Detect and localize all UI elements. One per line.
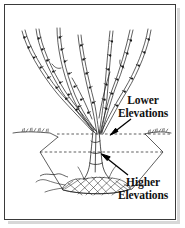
ground-line-left — [13, 132, 58, 137]
elevation-lines-group — [40, 134, 171, 152]
figure-container: Lower Elevations Higher Elevations — [0, 0, 185, 228]
lower-elevations-label-line1: Lower — [113, 94, 173, 107]
grass-tufts-left — [22, 128, 48, 132]
lower-elevations-label-line2: Elevations — [113, 107, 173, 120]
higher-elevations-arrow — [101, 154, 128, 175]
annotation-arrows-group — [101, 119, 131, 175]
lower-elevations-arrow — [110, 119, 131, 135]
higher-elevations-label-line2: Elevations — [113, 189, 173, 202]
lower-elevations-label: Lower Elevations — [113, 94, 173, 119]
higher-elevations-label-line1: Higher — [113, 176, 173, 189]
higher-elevations-label: Higher Elevations — [113, 176, 173, 201]
